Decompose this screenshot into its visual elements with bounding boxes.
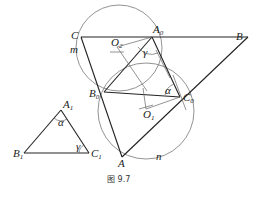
segment-ca [81, 37, 122, 157]
label-a1: A1 [62, 98, 73, 112]
label-arc-n: n [156, 150, 162, 162]
figure-caption: 图 9.7 [107, 175, 130, 184]
label-alpha: α [165, 84, 171, 96]
label-c: C [71, 29, 79, 41]
label-b: B [236, 30, 243, 42]
triangle-a1-b1 [24, 110, 61, 153]
label-alpha1: α [58, 116, 64, 128]
tangent-line-a0 [156, 50, 170, 78]
label-b1: B1 [13, 147, 23, 161]
label-a: A [117, 157, 125, 169]
label-gamma: γ [143, 46, 148, 58]
label-b0: B0 [89, 87, 100, 101]
label-o2: O2 [111, 36, 123, 50]
label-c1: C1 [91, 147, 102, 161]
label-arc-m: m [70, 43, 78, 55]
label-o1: O1 [143, 108, 154, 122]
angle-arc-gamma [138, 47, 158, 54]
geometry-figure: C A0 B B0 C0 A O2 O1 A1 B1 C1 m n γ α α … [0, 0, 255, 198]
label-c0: C0 [183, 91, 194, 105]
label-a0: A0 [152, 23, 164, 37]
triangle-a1-c1 [61, 110, 89, 153]
label-gamma1: γ [76, 140, 81, 152]
segment-o1-perp [143, 88, 146, 109]
